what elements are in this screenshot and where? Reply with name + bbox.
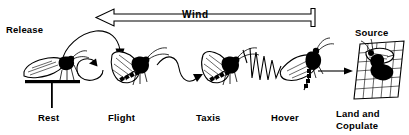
stage-label-hover: Hover [271, 112, 299, 123]
loop-arrow-icon [77, 59, 103, 81]
stage-label-rest: Rest [38, 112, 59, 123]
stage-label-flight: Flight [108, 112, 135, 123]
wind-label: Wind [182, 9, 209, 20]
moth-flying-icon [111, 48, 169, 85]
moth-pheromone-behavior-figure: Wind Release Source Rest Flight Taxis Ho… [0, 0, 409, 135]
stage-label-land-line2: Copulate [336, 120, 380, 132]
release-label: Release [6, 24, 43, 35]
moth-hovering-icon [280, 38, 334, 90]
moth-resting-icon [24, 51, 89, 108]
source-label: Source [355, 27, 388, 38]
moths-on-source-icon [354, 39, 404, 99]
stage-label-land-line1: Land and [336, 108, 380, 120]
zigzag-path-icon [243, 48, 281, 80]
wavy-path-icon [157, 57, 203, 82]
stage-label-land-and-copulate: Land and Copulate [336, 108, 380, 132]
stage-label-taxis: Taxis [196, 112, 221, 123]
straight-arrow-icon [318, 68, 353, 75]
